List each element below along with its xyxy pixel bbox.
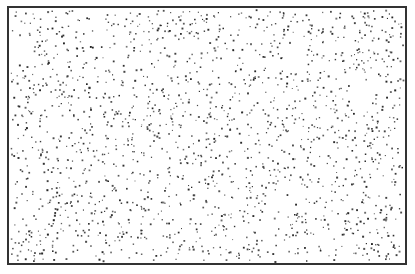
random-dots xyxy=(9,8,405,263)
dot-pattern-frame xyxy=(7,6,407,265)
